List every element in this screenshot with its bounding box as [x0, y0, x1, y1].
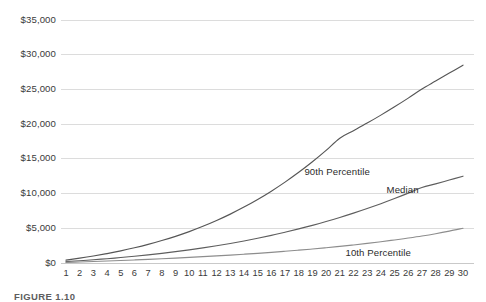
- y-axis-tick-label: $20,000: [21, 118, 56, 129]
- y-axis-tick-label: $10,000: [21, 187, 56, 198]
- series-label: 90th Percentile: [304, 166, 370, 177]
- y-axis-tick-label: $0: [45, 257, 56, 268]
- figure-container: $0$5,000$10,000$15,000$20,000$25,000$30,…: [0, 0, 486, 302]
- series-label: 10th Percentile: [345, 247, 411, 258]
- series-line: [66, 65, 463, 260]
- y-axis-tick-label: $25,000: [21, 83, 56, 94]
- y-axis-tick-label: $15,000: [21, 152, 56, 163]
- gridlines-group: [61, 20, 474, 263]
- figure-caption: FIGURE 1.10: [14, 291, 75, 302]
- chart-plot-area: [0, 0, 486, 302]
- series-label: Median: [387, 184, 419, 195]
- y-axis-tick-label: $5,000: [26, 222, 56, 233]
- y-axis-tick-label: $35,000: [21, 14, 56, 25]
- series-lines-group: [66, 65, 463, 262]
- x-axis-tick-label: 30: [454, 268, 472, 278]
- y-axis-tick-label: $30,000: [21, 48, 56, 59]
